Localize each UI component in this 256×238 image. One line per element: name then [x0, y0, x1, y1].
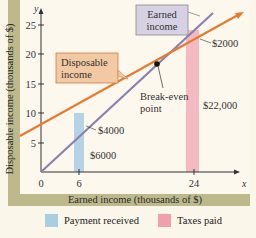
- earned-at-6-label: $6000: [90, 150, 116, 161]
- payment-swatch: [45, 214, 58, 227]
- break-even-label-1: Break-even: [140, 91, 189, 102]
- disposable-callout-line1: Disposable: [61, 57, 108, 68]
- earned-callout-pointer: [188, 12, 200, 16]
- y-symbol: y: [33, 3, 39, 14]
- val-2000-leader: [200, 39, 211, 43]
- x-axis-arrow-icon: [234, 170, 240, 175]
- x-symbol: x: [241, 178, 247, 189]
- y-tick-5: 5: [31, 138, 36, 149]
- payment-value-label: $4000: [98, 125, 124, 136]
- chart-svg: 25 20 15 10 5 y x 0 6 24 Break-even poin…: [0, 0, 256, 206]
- y-tick-25: 25: [26, 20, 37, 31]
- legend-item-payment: Payment received: [45, 214, 139, 227]
- legend-payment-label: Payment received: [64, 215, 139, 226]
- legend-taxes-label: Taxes paid: [177, 215, 222, 226]
- payment-band: [74, 113, 84, 172]
- break-even-label-2: point: [140, 103, 162, 114]
- x-tick-24: 24: [189, 178, 200, 189]
- earned-callout-line2: income: [147, 21, 178, 32]
- legend-item-taxes: Taxes paid: [158, 214, 222, 227]
- y-tick-15: 15: [26, 79, 37, 90]
- taxes-swatch: [158, 214, 171, 227]
- break-even-point: [154, 61, 160, 67]
- disposable-arrow-icon: [235, 12, 244, 19]
- break-even-leader: [158, 66, 163, 88]
- disposable-at-24-label: $22,000: [203, 100, 237, 111]
- x-tick-6: 6: [76, 178, 81, 189]
- y-tick-20: 20: [26, 49, 37, 60]
- disposable-callout-line2: income: [61, 69, 92, 80]
- y-axis-arrow-icon: [39, 8, 44, 14]
- y-tick-10: 10: [26, 108, 37, 119]
- disposable-callout-pointer: [118, 70, 128, 79]
- earned-callout-line1: Earned: [147, 9, 177, 20]
- disposable-income-line: [20, 15, 238, 136]
- taxes-value-label: $2000: [212, 38, 238, 49]
- x-tick-0: 0: [38, 178, 43, 189]
